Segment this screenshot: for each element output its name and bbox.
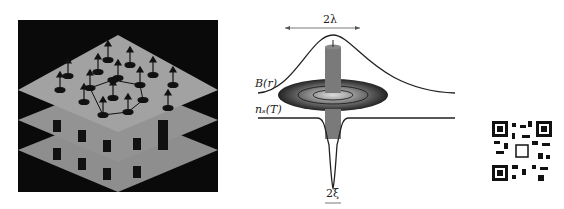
- field-profile-label: B(r): [255, 77, 277, 90]
- vortex-lattice-illustration: [18, 20, 218, 192]
- coherence-width-label: 2ξ: [326, 187, 339, 200]
- density-profile-label: nₛ(T): [255, 103, 282, 116]
- vortex-profile-diagram: 2λ B(r) nₛ(T) 2ξ: [255, 5, 455, 205]
- qr-code: [492, 121, 552, 181]
- penetration-width-label: 2λ: [323, 13, 337, 26]
